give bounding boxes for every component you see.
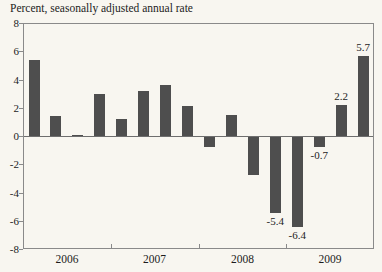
bar-2006-q3 bbox=[72, 135, 83, 136]
quarterly-gdp-growth-bar-chart: Percent, seasonally adjusted annual rate… bbox=[0, 0, 382, 272]
bar-2006-q2 bbox=[50, 116, 61, 136]
x-year-label-2007: 2007 bbox=[133, 253, 177, 266]
value-label-2009-q2: -0.7 bbox=[301, 149, 337, 161]
y-tick-mark--4 bbox=[19, 193, 23, 194]
bar-2007-q1 bbox=[116, 119, 127, 136]
bar-2007-q3 bbox=[160, 85, 171, 136]
bar-2009-q4 bbox=[358, 56, 369, 137]
y-tick-mark--6 bbox=[19, 221, 23, 222]
x-year-label-2006: 2006 bbox=[45, 253, 89, 266]
y-tick-mark-6 bbox=[19, 51, 23, 52]
bar-2009-q3 bbox=[336, 105, 347, 136]
bar-2007-q4 bbox=[182, 106, 193, 136]
y-tick-label--8: -8 bbox=[0, 243, 19, 255]
bar-2006-q1 bbox=[29, 60, 40, 136]
value-label-2009-q4: 5.7 bbox=[345, 41, 381, 53]
bar-2006-q4 bbox=[94, 94, 105, 136]
bar-2008-q4 bbox=[270, 137, 281, 213]
y-tick-mark-8 bbox=[19, 23, 23, 24]
y-tick-label-8: 8 bbox=[0, 17, 19, 29]
y-tick-label-4: 4 bbox=[0, 74, 19, 86]
bar-2008-q1 bbox=[204, 137, 215, 147]
y-tick-mark--2 bbox=[19, 164, 23, 165]
y-tick-label-2: 2 bbox=[0, 102, 19, 114]
y-tick-label-6: 6 bbox=[0, 45, 19, 57]
bar-2008-q3 bbox=[248, 137, 259, 175]
bar-2007-q2 bbox=[138, 91, 149, 136]
y-tick-mark-0 bbox=[19, 136, 23, 137]
value-label-2008-q4: -5.4 bbox=[257, 215, 293, 227]
y-tick-mark-2 bbox=[19, 108, 23, 109]
x-tick-mark-2008 bbox=[199, 244, 200, 248]
bar-2009-q2 bbox=[314, 137, 325, 147]
x-year-label-2008: 2008 bbox=[220, 253, 264, 266]
y-tick-label--4: -4 bbox=[0, 187, 19, 199]
y-tick-label-0: 0 bbox=[0, 130, 19, 142]
bar-2008-q2 bbox=[226, 115, 237, 136]
y-tick-mark--8 bbox=[19, 249, 23, 250]
y-tick-mark-4 bbox=[19, 80, 23, 81]
x-tick-mark-2007 bbox=[111, 244, 112, 248]
x-year-label-2009: 2009 bbox=[308, 253, 352, 266]
chart-title: Percent, seasonally adjusted annual rate bbox=[10, 2, 193, 14]
x-tick-mark-2009 bbox=[286, 244, 287, 248]
value-label-2009-q1: -6.4 bbox=[279, 229, 315, 241]
y-tick-label--2: -2 bbox=[0, 158, 19, 170]
y-tick-label--6: -6 bbox=[0, 215, 19, 227]
value-label-2009-q3: 2.2 bbox=[323, 90, 359, 102]
